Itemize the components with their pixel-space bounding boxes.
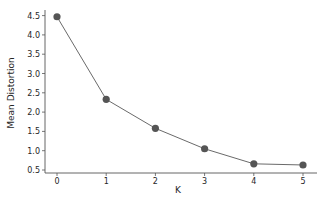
y-tick-label: 2.5 (27, 89, 40, 98)
data-point (152, 125, 159, 132)
data-point (201, 145, 208, 152)
y-tick-label: 1.0 (27, 147, 40, 156)
y-axis-ticks: 0.51.01.52.02.53.03.54.04.5 (27, 12, 45, 175)
elbow-chart: 0.51.01.52.02.53.03.54.04.5 012345 K Mea… (0, 0, 330, 203)
y-tick-label: 0.5 (27, 166, 40, 175)
y-tick-label: 2.0 (27, 108, 40, 117)
x-tick-label: 2 (153, 177, 158, 186)
data-point-markers (53, 13, 306, 168)
y-tick-label: 3.0 (27, 70, 40, 79)
data-point (53, 13, 60, 20)
x-tick-label: 0 (54, 177, 59, 186)
x-axis-label: K (175, 185, 182, 195)
x-tick-label: 4 (251, 177, 256, 186)
x-tick-label: 5 (300, 177, 305, 186)
y-tick-label: 3.5 (27, 50, 40, 59)
y-axis-label: Mean Distortion (6, 57, 16, 128)
y-tick-label: 4.0 (27, 31, 40, 40)
data-point (250, 160, 257, 167)
distortion-line (57, 17, 303, 165)
y-tick-label: 4.5 (27, 12, 40, 21)
data-point (103, 96, 110, 103)
x-tick-label: 1 (104, 177, 109, 186)
y-tick-label: 1.5 (27, 127, 40, 136)
data-point (299, 161, 306, 168)
x-tick-label: 3 (202, 177, 207, 186)
